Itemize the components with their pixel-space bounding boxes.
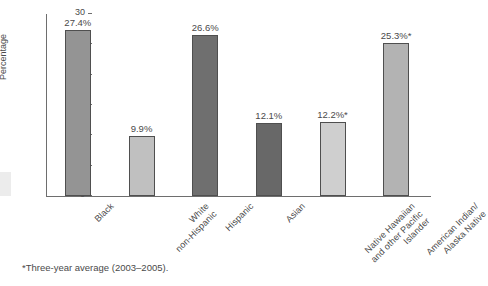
bar-value-label: 25.3%* xyxy=(381,30,412,41)
x-axis-label: Hispanic xyxy=(224,201,256,233)
y-axis-title: Percentage xyxy=(0,0,8,80)
bar-value-label: 12.2%* xyxy=(317,109,348,120)
x-axis-line xyxy=(46,196,431,197)
y-axis-tick-mark xyxy=(88,13,92,14)
bar: 25.3%* xyxy=(383,43,409,196)
bar: 12.1% xyxy=(256,123,282,196)
x-axis-label: American Indian/Alaska Native xyxy=(424,201,488,265)
bar-value-label: 26.6% xyxy=(192,22,219,33)
x-axis-label: Black xyxy=(92,201,115,224)
scan-artifact xyxy=(0,172,11,196)
bar-value-label: 9.9% xyxy=(131,123,153,134)
y-axis-tick-label: 30 xyxy=(75,7,85,17)
x-axis-label-line: Black xyxy=(92,201,115,224)
chart-footnote: *Three-year average (2003–2005). xyxy=(22,262,168,274)
bar: 12.2%* xyxy=(320,122,346,196)
bar-value-label: 27.4% xyxy=(64,17,91,28)
bar: 26.6% xyxy=(192,35,218,196)
bar: 9.9% xyxy=(129,136,155,196)
plot-area: 302520151050 27.4%9.9%26.6%12.1%12.2%*25… xyxy=(46,14,428,196)
bar: 27.4% xyxy=(65,30,91,196)
x-axis-label: Native Hawaiianand other PacificIslander xyxy=(361,201,432,272)
x-axis-label-line: Asian xyxy=(284,201,308,225)
bar-value-label: 12.1% xyxy=(255,110,282,121)
x-axis-label-line: Hispanic xyxy=(224,201,256,233)
x-axis-label: Asian xyxy=(284,201,308,225)
x-axis-label: Whitenon-Hispanic xyxy=(165,201,218,254)
